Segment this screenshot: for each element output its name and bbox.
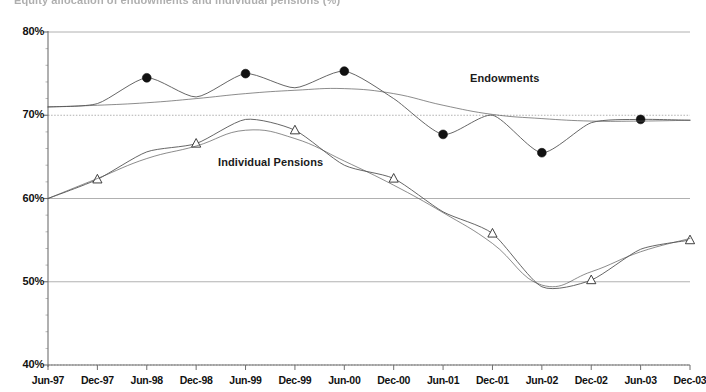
data-marker-individual-pensions [488,228,497,237]
data-marker-endowments [142,73,151,82]
x-axis-tick-label: Dec-03 [674,374,706,386]
x-axis-tick-label: Dec-99 [278,374,311,386]
data-marker-individual-pensions [587,275,596,284]
series-line-2 [48,119,690,288]
series-label-endowments: Endowments [470,72,539,84]
x-axis-tick-label: Jun-01 [427,374,459,386]
y-axis-tick-label: 70% [2,108,44,120]
x-axis-tick-label: Dec-01 [476,374,509,386]
y-axis-tick-label: 60% [2,192,44,204]
data-marker-individual-pensions [290,125,299,134]
x-axis-tick-label: Jun-98 [131,374,163,386]
x-axis-tick-label: Jun-99 [229,374,261,386]
x-axis-tick-label: Jun-02 [526,374,558,386]
data-marker-endowments [636,115,645,124]
x-axis-tick-label: Dec-00 [377,374,410,386]
x-axis-tick-label: Dec-98 [180,374,213,386]
data-marker-endowments [537,148,546,157]
x-axis-tick-label: Dec-02 [575,374,608,386]
y-axis-tick-label: 50% [2,275,44,287]
chart-title: Equity allocation of endowments and indi… [14,0,340,6]
series-label-individual-pensions: Individual Pensions [218,156,323,168]
y-axis-tick-label: 80% [2,25,44,37]
x-axis-tick-label: Jun-03 [624,374,656,386]
y-axis-labels: 80%70%60%50%40% [0,0,44,392]
series-line-0 [48,71,690,153]
data-marker-individual-pensions [389,174,398,183]
x-axis-tick-label: Jun-00 [328,374,360,386]
data-marker-endowments [241,69,250,78]
x-axis-tick-label: Jun-97 [32,374,64,386]
data-marker-endowments [439,130,448,139]
x-axis-tick-label: Dec-97 [81,374,114,386]
data-marker-endowments [340,67,349,76]
series-line-1 [48,88,690,121]
y-axis-tick-label: 40% [2,358,44,370]
